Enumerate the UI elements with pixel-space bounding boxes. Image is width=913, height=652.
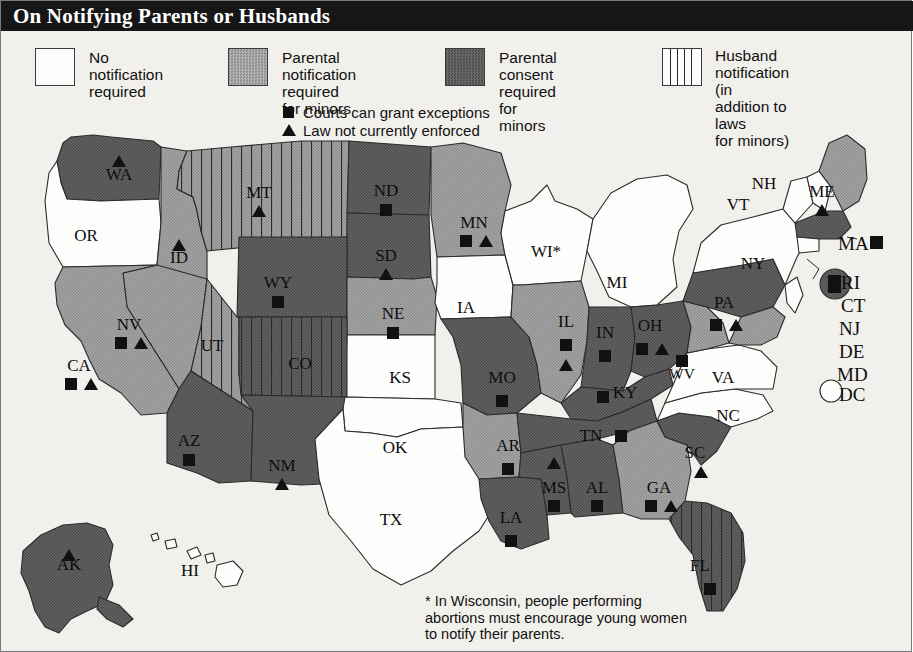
- marker-square-WV: [676, 355, 688, 367]
- us-map: WA OR ID MT ND SD WY NV UT CO NE KS CA A…: [1, 127, 913, 652]
- label-WI: WI*: [531, 242, 561, 261]
- state-NJ[interactable]: [785, 277, 803, 313]
- label-KS: KS: [389, 368, 411, 387]
- callout-label-MA[interactable]: MA: [838, 233, 869, 255]
- marker-square-MN: [460, 235, 472, 247]
- stripe-line: [670, 49, 671, 85]
- label-TN: TN: [580, 426, 603, 445]
- marker-triangle-SC: [694, 466, 708, 478]
- marker-square-MS: [548, 500, 560, 512]
- label-NC: NC: [716, 406, 740, 425]
- label-MI: MI: [607, 273, 628, 292]
- marker-square-AZ: [183, 454, 195, 466]
- label-NH: NH: [752, 174, 777, 193]
- label-OH: OH: [638, 316, 663, 335]
- marker-square-NE: [387, 327, 399, 339]
- label-UT: UT: [201, 336, 224, 355]
- marker-square-TN: [615, 430, 627, 442]
- label-IL: IL: [558, 312, 574, 331]
- stripe-line: [684, 49, 685, 85]
- label-FL: FL: [690, 556, 710, 575]
- label-WV: WV: [669, 365, 696, 382]
- label-AZ: AZ: [178, 431, 201, 450]
- swatch-parental-notification: [228, 48, 268, 86]
- label-NY: NY: [741, 254, 766, 273]
- label-NM: NM: [268, 456, 295, 475]
- state-AK[interactable]: [21, 523, 133, 633]
- label-SD: SD: [375, 246, 397, 265]
- label-NE: NE: [382, 304, 405, 323]
- state-KS[interactable]: [345, 335, 435, 399]
- label-OK: OK: [383, 438, 408, 457]
- state-IN[interactable]: [581, 307, 635, 391]
- marker-square-AR: [502, 463, 514, 475]
- stripe-line: [691, 49, 692, 85]
- callout-label-RI[interactable]: RI: [841, 272, 860, 294]
- label-KY: KY: [613, 383, 638, 402]
- marker-square-ND: [380, 204, 392, 216]
- label-AL: AL: [586, 478, 609, 497]
- callout-label-DC[interactable]: DC: [839, 384, 865, 406]
- callout-label-CT[interactable]: CT: [841, 295, 865, 317]
- state-ND[interactable]: [347, 141, 431, 215]
- label-VT: VT: [727, 195, 750, 214]
- label-GA: GA: [647, 478, 672, 497]
- label-IN: IN: [596, 323, 614, 342]
- label-PA: PA: [714, 293, 735, 312]
- label-MN: MN: [460, 213, 487, 232]
- callout-label-NJ[interactable]: NJ: [839, 318, 860, 340]
- label-ME: ME: [809, 182, 835, 201]
- marker-square-KY: [597, 391, 609, 403]
- marker-square-PA: [710, 319, 722, 331]
- callout-label-MD[interactable]: MD: [837, 364, 868, 386]
- marker-square-AL: [591, 500, 603, 512]
- callout-label-DE[interactable]: DE: [839, 341, 864, 363]
- title-bar: On Notifying Parents or Husbands: [1, 1, 913, 31]
- label-NV: NV: [117, 315, 142, 334]
- legend-label-no-notification: No notification required: [89, 49, 163, 100]
- label-HI: HI: [181, 561, 199, 580]
- marker-square-WY: [272, 296, 284, 308]
- label-MT: MT: [246, 183, 272, 202]
- label-LA: LA: [500, 508, 523, 527]
- state-WI[interactable]: [501, 185, 593, 285]
- label-TX: TX: [380, 510, 403, 529]
- label-ND: ND: [374, 181, 399, 200]
- state-MI[interactable]: [587, 175, 693, 307]
- marker-square-GA: [645, 500, 657, 512]
- marker-square-FL: [704, 583, 716, 595]
- marker-square-LA: [505, 535, 517, 547]
- filled-square-icon: [283, 107, 294, 118]
- marker-triangle-CA: [84, 378, 98, 390]
- swatch-husband-notification: [662, 48, 702, 86]
- swatch-no-notification: [35, 48, 75, 86]
- marker-square-NV: [115, 337, 127, 349]
- label-IA: IA: [457, 298, 476, 317]
- label-VA: VA: [712, 368, 735, 387]
- marker-square-IN: [599, 350, 611, 362]
- legend: No notification required Parental notifi…: [1, 31, 913, 136]
- legend-label-parental-consent: Parental consent required for minors: [499, 49, 557, 134]
- label-CA: CA: [67, 356, 91, 375]
- label-CO: CO: [288, 354, 312, 373]
- legend-label-courts-exceptions: Courts can grant exceptions: [303, 104, 490, 121]
- marker-square-IL: [560, 339, 572, 351]
- marker-square-CA: [65, 378, 77, 390]
- marker-square-OH: [636, 343, 648, 355]
- page-title: On Notifying Parents or Husbands: [13, 4, 330, 29]
- label-SC: SC: [685, 443, 706, 462]
- footnote-wisconsin: * In Wisconsin, people performing aborti…: [425, 593, 695, 643]
- label-WA: WA: [106, 165, 133, 184]
- label-MS: MS: [542, 478, 567, 497]
- label-AR: AR: [496, 436, 520, 455]
- label-MO: MO: [488, 368, 515, 387]
- state-CT[interactable]: [797, 237, 819, 253]
- label-WY: WY: [264, 273, 292, 292]
- stripe-line: [677, 49, 678, 85]
- swatch-parental-consent: [445, 48, 485, 86]
- marker-square-MA: [870, 236, 883, 249]
- label-OR: OR: [74, 226, 98, 245]
- marker-square-MO: [496, 395, 508, 407]
